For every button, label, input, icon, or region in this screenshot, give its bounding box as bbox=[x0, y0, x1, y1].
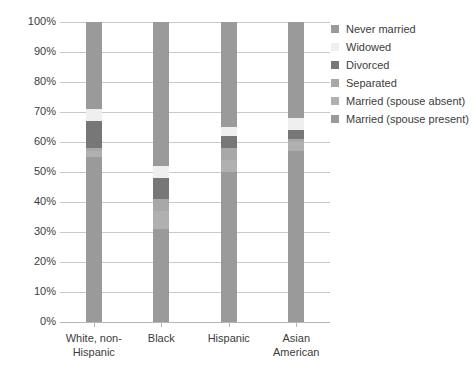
bar-segment bbox=[153, 178, 169, 199]
bar-segment bbox=[288, 151, 304, 322]
bar-segment bbox=[288, 118, 304, 130]
legend-swatch-icon bbox=[331, 61, 339, 69]
legend-item[interactable]: Widowed bbox=[331, 38, 471, 55]
bar-segment bbox=[153, 166, 169, 178]
plot-area bbox=[60, 22, 330, 322]
y-axis-tick-label: 70% bbox=[10, 106, 56, 117]
legend-item[interactable]: Never married bbox=[331, 20, 471, 37]
y-axis-tick-label: 80% bbox=[10, 76, 56, 87]
bar-segment bbox=[86, 121, 102, 148]
bar-segment bbox=[153, 229, 169, 322]
bar-segment bbox=[86, 22, 102, 109]
bar-segment bbox=[86, 148, 102, 151]
x-axis-tick bbox=[229, 322, 230, 327]
y-axis-tick-label: 60% bbox=[10, 136, 56, 147]
legend-swatch-icon bbox=[331, 115, 339, 123]
bar-segment bbox=[221, 136, 237, 148]
legend-label: Never married bbox=[346, 23, 416, 35]
bar-segment bbox=[221, 172, 237, 322]
y-axis-tick-label: 100% bbox=[10, 16, 56, 27]
x-axis-label: AsianAmerican bbox=[251, 331, 341, 359]
legend-label: Widowed bbox=[346, 41, 391, 53]
y-axis-tick-label: 20% bbox=[10, 256, 56, 267]
bar-segment bbox=[153, 199, 169, 211]
bar-column bbox=[288, 22, 304, 322]
bar-segment bbox=[221, 22, 237, 127]
legend-label: Divorced bbox=[346, 59, 389, 71]
legend-swatch-icon bbox=[331, 25, 339, 33]
legend-item[interactable]: Separated bbox=[331, 74, 471, 91]
legend-item[interactable]: Married (spouse absent) bbox=[331, 92, 471, 109]
legend-swatch-icon bbox=[331, 43, 339, 51]
bar-segment bbox=[153, 211, 169, 229]
bar-segment bbox=[221, 127, 237, 136]
y-axis-tick-label: 30% bbox=[10, 226, 56, 237]
y-axis-labels: 100%90%80%70%60%50%40%30%20%10%0% bbox=[0, 22, 56, 322]
bar-segment bbox=[86, 157, 102, 322]
bar-segment bbox=[86, 109, 102, 121]
bar-segment bbox=[288, 142, 304, 151]
y-axis-tick-label: 10% bbox=[10, 286, 56, 297]
legend-swatch-icon bbox=[331, 79, 339, 87]
x-axis-label-line: American bbox=[251, 345, 341, 359]
y-axis-tick-label: 0% bbox=[10, 316, 56, 327]
y-axis-tick-label: 90% bbox=[10, 46, 56, 57]
bar-segment bbox=[288, 130, 304, 139]
bar-segment bbox=[288, 22, 304, 118]
x-axis-tick bbox=[161, 322, 162, 327]
x-axis-label-line: Asian bbox=[251, 331, 341, 345]
x-axis-line bbox=[60, 322, 330, 323]
x-axis-tick bbox=[296, 322, 297, 327]
y-axis-tick-label: 50% bbox=[10, 166, 56, 177]
bar-segment bbox=[221, 160, 237, 172]
y-axis-tick-label: 40% bbox=[10, 196, 56, 207]
legend-label: Married (spouse absent) bbox=[346, 95, 465, 107]
stacked-bar-chart: 100%90%80%70%60%50%40%30%20%10%0% White,… bbox=[0, 0, 473, 366]
legend-swatch-icon bbox=[331, 97, 339, 105]
legend-label: Separated bbox=[346, 77, 397, 89]
bar-segment bbox=[221, 148, 237, 160]
chart-legend: Never marriedWidowedDivorcedSeparatedMar… bbox=[331, 20, 471, 128]
bar-column bbox=[221, 22, 237, 322]
bar-segment bbox=[288, 139, 304, 142]
x-axis-tick bbox=[94, 322, 95, 327]
bar-column bbox=[153, 22, 169, 322]
x-axis-label-line: Hispanic bbox=[49, 345, 139, 359]
legend-label: Married (spouse present) bbox=[346, 113, 469, 125]
legend-item[interactable]: Married (spouse present) bbox=[331, 110, 471, 127]
bar-column bbox=[86, 22, 102, 322]
bar-segment bbox=[153, 22, 169, 166]
legend-item[interactable]: Divorced bbox=[331, 56, 471, 73]
bar-segment bbox=[86, 151, 102, 157]
